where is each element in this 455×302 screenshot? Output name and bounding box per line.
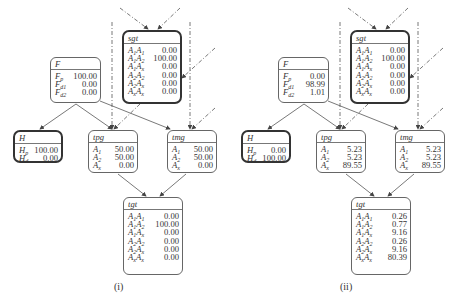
node-title: F	[51, 58, 100, 70]
panel-i: sgtA1A10.00A1A2100.00A1Ax0.00A2A20.00A2A…	[0, 0, 228, 302]
node-rows: A15.23A25.23Ax89.55	[396, 143, 444, 172]
state-row: Fd20.00	[55, 88, 97, 96]
node-rows: Hp100.00Hd0.00	[15, 144, 61, 164]
node-title: tmg	[396, 131, 444, 143]
edge-F-tmg	[100, 101, 170, 129]
node-rows: A150.00A250.00Ax0.00	[168, 143, 216, 172]
state-probability: 0.00	[164, 253, 179, 261]
state-row: AxAx0.00	[356, 87, 405, 95]
edge-input-sgt-side	[182, 48, 215, 78]
node-title: tgt	[352, 198, 410, 210]
node-rows: A150.00A250.00Ax0.00	[89, 143, 137, 172]
node-tgt: tgtA1A10.00A1A2100.00A1Ax0.00A2A20.00A2A…	[123, 197, 183, 275]
state-row: Ax89.55	[321, 161, 362, 169]
edge-F-tmg	[328, 101, 398, 129]
node-rows: A1A10.00A1A2100.00A1Ax0.00A2A20.00A2Ax0.…	[124, 44, 180, 97]
node-tpg: tpgA150.00A250.00Ax0.00	[88, 130, 138, 173]
node-rows: Fp100.00Fd10.00Fd20.00	[51, 70, 100, 99]
state-row: Hd0.00	[19, 154, 58, 162]
node-title: F	[279, 58, 328, 70]
node-sgt: sgtA1A10.00A1A2100.00A1Ax0.00A2A20.00A2A…	[350, 30, 410, 104]
node-tmg: tmgA150.00A250.00Ax0.00	[167, 130, 217, 173]
state-probability: 0.00	[198, 161, 213, 169]
edge-tpg-tgt	[346, 174, 374, 196]
state-row: AxAx0.00	[128, 253, 179, 261]
edge-input-tmg-side	[420, 108, 443, 129]
state-label: Ax	[93, 161, 101, 169]
edge-F-tpg	[304, 104, 340, 129]
node-rows: A1A10.26A1A20.77A1Ax9.16A2A20.26A2Ax9.16…	[352, 210, 410, 263]
state-probability: 0.00	[390, 87, 405, 95]
state-label: AxAx	[356, 87, 372, 95]
edge-F-H	[40, 104, 76, 129]
state-row: AxAx80.39	[356, 253, 407, 261]
state-label: AxAx	[128, 253, 144, 261]
node-F: FFp0.00Fd198.99Fd21.01	[278, 57, 329, 103]
edge-F-tpg	[76, 104, 112, 129]
state-label: Ax	[172, 161, 180, 169]
node-rows: Hp0.00Hd100.00	[243, 144, 289, 164]
state-probability: 0.00	[162, 87, 177, 95]
node-sgt: sgtA1A10.00A1A2100.00A1Ax0.00A2A20.00A2A…	[122, 30, 182, 104]
node-title: sgt	[352, 32, 408, 44]
state-label: Ax	[321, 161, 329, 169]
state-label: Hd	[19, 154, 28, 162]
node-H: HHp0.00Hd100.00	[241, 130, 291, 163]
edge-input-sgt-left	[120, 8, 148, 29]
edge-input-sgt-side	[410, 48, 443, 78]
panel-ii: sgtA1A10.00A1A2100.00A1Ax0.00A2A20.00A2A…	[228, 0, 455, 302]
state-probability: 89.55	[422, 161, 441, 169]
panel-caption: (i)	[114, 281, 123, 292]
node-title: tgt	[124, 198, 182, 210]
node-title: tpg	[317, 131, 365, 143]
state-label: Hd	[247, 154, 256, 162]
node-title: H	[15, 132, 61, 144]
node-F: FFp100.00Fd10.00Fd20.00	[50, 57, 101, 103]
node-rows: A1A10.00A1A2100.00A1Ax0.00A2A20.00A2Ax0.…	[124, 210, 182, 263]
state-row: Ax0.00	[172, 161, 213, 169]
node-tgt: tgtA1A10.26A1A20.77A1Ax9.16A2A20.26A2Ax9…	[351, 197, 411, 275]
state-probability: 89.55	[343, 161, 362, 169]
panel-caption: (ii)	[340, 281, 352, 292]
state-label: Fd2	[55, 88, 66, 96]
node-title: tpg	[89, 131, 137, 143]
edge-input-tmg-side	[192, 108, 215, 129]
node-title: H	[243, 132, 289, 144]
edge-input-sgt-left	[348, 8, 376, 29]
node-H: HHp100.00Hd0.00	[13, 130, 63, 163]
node-rows: A1A10.00A1A2100.00A1Ax0.00A2A20.00A2Ax0.…	[352, 44, 408, 97]
state-probability: 0.00	[43, 154, 58, 162]
edge-F-H	[268, 104, 304, 129]
state-row: Ax89.55	[400, 161, 441, 169]
state-row: AxAx0.00	[128, 87, 177, 95]
state-label: Ax	[400, 161, 408, 169]
state-row: Hd100.00	[247, 154, 286, 162]
state-probability: 0.00	[82, 88, 97, 96]
edge-tmg-tgt	[160, 174, 186, 196]
state-probability: 100.00	[262, 154, 286, 162]
state-row: Ax0.00	[93, 161, 134, 169]
node-title: tmg	[168, 131, 216, 143]
state-label: AxAx	[356, 253, 372, 261]
node-tmg: tmgA15.23A25.23Ax89.55	[395, 130, 445, 173]
node-rows: Fp0.00Fd198.99Fd21.01	[279, 70, 328, 99]
state-label: Fd2	[283, 88, 294, 96]
edge-tpg-tgt	[118, 174, 146, 196]
edge-input-sgt-right	[158, 8, 180, 29]
state-label: AxAx	[128, 87, 144, 95]
state-probability: 1.01	[310, 88, 325, 96]
node-tpg: tpgA15.23A25.23Ax89.55	[316, 130, 366, 173]
node-rows: A15.23A25.23Ax89.55	[317, 143, 365, 172]
edge-tmg-tgt	[388, 174, 414, 196]
state-row: Fd21.01	[283, 88, 325, 96]
state-probability: 0.00	[119, 161, 134, 169]
state-probability: 80.39	[388, 253, 407, 261]
edge-input-sgt-right	[386, 8, 408, 29]
node-title: sgt	[124, 32, 180, 44]
